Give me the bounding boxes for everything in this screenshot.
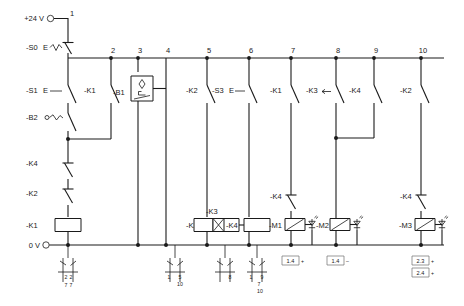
junction-dot	[205, 243, 209, 247]
sensor-b1[interactable]: -B1	[113, 76, 166, 245]
xref-k2-right-top: 5	[179, 274, 182, 280]
switch-s0[interactable]: -S0 E	[26, 33, 74, 58]
coil-k4-label: -K4	[226, 221, 238, 230]
contact-k4-m3-label: -K4	[400, 192, 412, 201]
valve-tag-4-sign: +	[431, 270, 434, 276]
sensor-b2-label: -B2	[26, 113, 38, 122]
contact-k4-left[interactable]: -K4	[26, 159, 74, 186]
contact-k3-r8[interactable]: -K3	[306, 80, 374, 195]
coil-k1-box	[55, 219, 81, 232]
valve-tag-1: 1.4 +	[282, 256, 304, 265]
contact-k2-left-label: -K2	[26, 189, 38, 198]
ladder-diagram-svg: +24 V 1 -S0 E 2 3 4 5	[0, 0, 464, 306]
valve-tag-1-sign: +	[301, 258, 304, 264]
rung-number-2: 2	[111, 46, 115, 55]
coil-k1-label: -K1	[26, 221, 38, 230]
supply-bottom-terminal	[43, 242, 49, 248]
xref-k2-right-bottom: 10	[177, 281, 183, 287]
contact-k1-r7[interactable]: -K1	[270, 80, 299, 195]
bottom-left-tag-top: 2	[65, 274, 68, 280]
supply-bottom-label: 0 V	[29, 241, 40, 250]
contact-k4-r9[interactable]: -K4	[349, 80, 382, 138]
rung-number-9: 9	[374, 46, 378, 55]
junction-dot	[289, 243, 293, 247]
solenoid-m3[interactable]: -M3	[399, 216, 448, 245]
contact-k1-seal-label: -K1	[84, 86, 96, 95]
xref-k1-right: 7	[70, 282, 73, 288]
contact-k3-r8-label: -K3	[306, 86, 318, 95]
sensor-b1-label: -B1	[113, 88, 125, 97]
contact-k2-r10-label: -K2	[400, 86, 412, 95]
switch-s1[interactable]: -S1 E	[26, 58, 76, 107]
solenoid-m1-label: -M1	[269, 221, 282, 230]
contact-k4-above-m1[interactable]: -K4	[270, 192, 297, 218]
junction-dot	[136, 243, 140, 247]
xref-k4-right-bottom: 10	[257, 288, 263, 294]
rung-number-10: 10	[419, 46, 427, 55]
supply-rail-bottom: 0 V	[29, 241, 444, 250]
junction-dot	[334, 243, 338, 247]
coil-k4-box	[244, 219, 270, 232]
contact-k1-r7-label: -K1	[270, 86, 282, 95]
solenoid-m2-label: -M2	[316, 221, 329, 230]
rung-number-4: 4	[166, 46, 170, 55]
rung-number-7: 7	[291, 46, 295, 55]
rung-number-1: 1	[70, 9, 74, 18]
switch-s1-type-label: E	[43, 86, 48, 95]
valve-tag-2-number: 1.4	[332, 258, 340, 264]
switch-s3-type-label: E	[229, 86, 234, 95]
switch-s0-type-label: E	[43, 43, 48, 52]
valve-tag-4: 2.4 +	[412, 268, 434, 277]
contact-k2-left[interactable]: -K2	[26, 186, 74, 217]
rung-number-5: 5	[207, 46, 211, 55]
xref-k1-left: 2	[70, 274, 73, 280]
valve-tag-2: 1.4 –	[327, 256, 349, 265]
xref-k2-left: 1	[168, 274, 171, 280]
contact-k4-r9-label: -K4	[349, 86, 361, 95]
xref-k4-left: 1	[250, 274, 253, 280]
switch-s3[interactable]: -S3 E	[212, 80, 257, 217]
solenoid-m3-label: -M3	[399, 221, 412, 230]
xref-k4-right-mid: 7	[258, 281, 261, 287]
valve-tag-2-sign: –	[346, 258, 349, 264]
rung-number-3: 3	[138, 46, 142, 55]
contact-k2-r5[interactable]: -K2	[186, 80, 215, 217]
valve-tag-4-number: 2.4	[417, 270, 425, 276]
supply-top-terminal	[47, 15, 53, 21]
bottom-left-tag: 2 7	[65, 274, 68, 288]
supply-rail-top: +24 V 1	[24, 9, 74, 33]
sensor-b2-terminal	[45, 116, 49, 120]
switch-s0-label: -S0	[26, 43, 38, 52]
valve-tag-3-number: 2.3	[417, 258, 425, 264]
valve-tag-1-number: 1.4	[287, 258, 295, 264]
rung-number-6: 6	[249, 46, 253, 55]
rung-headers: 2 3 4 5 6 7 8 9 10	[109, 46, 427, 80]
contact-k4-m1-label: -K4	[270, 192, 282, 201]
solenoid-m2[interactable]: -M2	[316, 216, 363, 245]
switch-s1-label: -S1	[26, 86, 38, 95]
xref-k4-right-top: 9	[261, 274, 264, 280]
contact-k4-above-m3[interactable]: -K4	[400, 192, 427, 218]
rung-number-8: 8	[336, 46, 340, 55]
contact-k2-r5-label: -K2	[186, 86, 198, 95]
valve-tag-3-sign: +	[431, 258, 434, 264]
contact-k4-left-label: -K4	[26, 159, 38, 168]
coil-k3-label: -K3	[206, 207, 218, 216]
coil-k4[interactable]: -K4	[226, 219, 270, 232]
supply-top-label: +24 V	[24, 14, 44, 23]
junction-dot	[164, 243, 168, 247]
xref-k3-right: 8	[229, 274, 232, 280]
xref-k2: 1 5 10	[165, 245, 185, 287]
switch-s3-label: -S3	[212, 86, 224, 95]
xref-k1: 2 7	[58, 245, 78, 288]
valve-tag-3: 2.3 +	[412, 256, 434, 265]
junction-dot	[419, 243, 423, 247]
junction-dot	[247, 243, 251, 247]
bottom-left-tag-bottom: 7	[65, 282, 68, 288]
contact-k1-seal-in[interactable]: -K1	[66, 70, 119, 141]
solenoid-m1[interactable]: -M1	[269, 216, 318, 245]
circuit-diagram-canvas: +24 V 1 -S0 E 2 3 4 5	[0, 0, 464, 306]
contact-k2-r10[interactable]: -K2	[400, 80, 429, 195]
sensor-b2[interactable]: -B2	[26, 107, 76, 160]
junction-dot	[66, 137, 70, 141]
